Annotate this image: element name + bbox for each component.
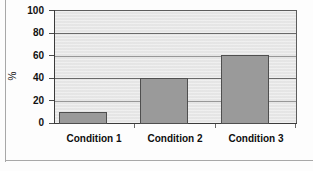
x-axis-label-condition-1: Condition 1 [54, 133, 134, 145]
x-tick-mark-3 [295, 124, 296, 128]
y-tick-label-100: 100 [18, 6, 44, 16]
y-tick-label-0: 0 [18, 118, 44, 128]
bar-condition-3[interactable] [221, 55, 269, 124]
x-tick-mark-1 [134, 124, 135, 128]
chart-figure: % 100 80 60 40 20 0 Condition 1 Conditio… [0, 0, 313, 171]
bar-condition-2[interactable] [140, 78, 188, 124]
gridline-80 [54, 33, 296, 34]
page-rule-bottom [5, 160, 313, 161]
y-tick-label-40: 40 [18, 73, 44, 83]
y-tick-label-60: 60 [18, 51, 44, 61]
bar-condition-1[interactable] [59, 112, 107, 124]
y-axis-line [54, 10, 55, 124]
x-axis-label-condition-3: Condition 3 [216, 133, 296, 145]
x-tick-mark-2 [215, 124, 216, 128]
y-tick-label-20: 20 [18, 96, 44, 106]
y-tick-label-80: 80 [18, 28, 44, 38]
x-axis-label-condition-2: Condition 2 [135, 133, 215, 145]
